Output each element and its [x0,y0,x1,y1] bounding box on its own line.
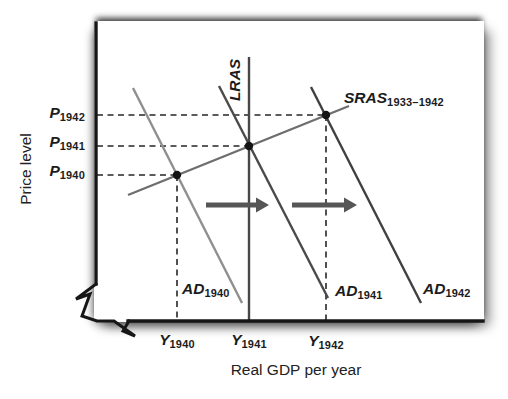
y1940-sub: 1940 [170,338,195,350]
curve-ad-1940 [133,88,242,303]
tick-label-p1942: P1942 [35,103,85,127]
p1941-base: P [49,133,59,150]
p1942-sub: 1942 [60,111,85,123]
curve-label-sras: SRAS1933–1942 [344,88,444,112]
y1941-base: Y [231,331,241,348]
sras-base: SRAS [344,89,387,106]
equilibrium-1940 [173,171,181,179]
tick-label-y1942: Y1942 [296,331,356,355]
axis-break [76,284,135,336]
y-axis-title: Price level [17,133,35,205]
x-axis-title: Real GDP per year [216,361,376,379]
y1942-sub: 1942 [319,339,344,351]
equilibrium-1942 [322,111,330,119]
tick-label-y1941: Y1941 [219,330,279,354]
ad1942-base: AD [423,280,445,297]
ad1942-sub: 1942 [445,287,470,299]
ad1941-base: AD [335,282,357,299]
p1941-sub: 1941 [60,140,85,152]
sras-sub: 1933–1942 [387,96,444,108]
curve-label-lras: LRAS [225,59,249,101]
curve-ad-1942 [311,87,421,303]
tick-label-p1941: P1941 [35,132,85,156]
figure: P1942 P1941 P1940 Y1940 Y1941 Y1942 AD19… [0,0,508,399]
ad1940-base: AD [182,280,204,297]
ad-shift-arrow-1-head-icon [256,198,269,213]
curve-label-ad1940: AD1940 [182,279,230,303]
p1940-base: P [49,162,59,179]
curve-ad-1941 [219,86,328,298]
lras-base: LRAS [226,59,243,101]
equilibrium-1941 [245,142,253,150]
p1940-sub: 1940 [60,169,85,181]
ad1940-sub: 1940 [204,287,229,299]
y1941-sub: 1941 [242,338,267,350]
y1940-base: Y [159,331,169,348]
ad-shift-arrow-2-head-icon [344,198,357,213]
curve-label-ad1942: AD1942 [423,279,471,303]
p1942-base: P [49,104,59,121]
y1942-base: Y [308,332,318,349]
tick-label-p1940: P1940 [35,161,85,185]
ad1941-sub: 1941 [357,289,382,301]
curve-sras-1933-1942 [128,106,349,195]
tick-label-y1940: Y1940 [147,330,207,354]
curve-label-ad1941: AD1941 [335,281,383,305]
